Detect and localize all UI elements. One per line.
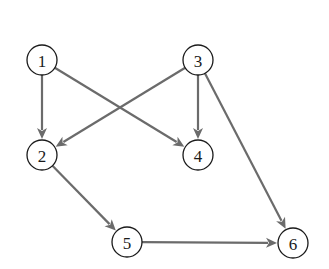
edges-layer <box>37 68 286 248</box>
edge-line <box>142 242 268 243</box>
edge-3-to-4 <box>193 75 203 139</box>
node-label: 1 <box>38 52 47 71</box>
node-1: 1 <box>27 45 57 75</box>
edge-line <box>55 68 177 142</box>
node-label: 2 <box>38 147 47 166</box>
directed-graph: 123456 <box>0 0 329 269</box>
node-6: 6 <box>278 228 308 258</box>
node-2: 2 <box>27 140 57 170</box>
edge-line <box>52 166 109 224</box>
edge-line <box>205 73 282 220</box>
node-label: 6 <box>289 235 298 254</box>
node-label: 4 <box>194 147 203 166</box>
node-5: 5 <box>112 227 142 257</box>
node-label: 5 <box>123 234 132 253</box>
edge-1-to-2 <box>37 75 47 139</box>
edge-2-to-5 <box>52 166 115 231</box>
edge-5-to-6 <box>142 238 277 248</box>
node-4: 4 <box>183 140 213 170</box>
node-label: 3 <box>194 52 203 71</box>
edge-3-to-6 <box>205 73 286 228</box>
edge-line <box>63 68 185 142</box>
node-3: 3 <box>183 45 213 75</box>
